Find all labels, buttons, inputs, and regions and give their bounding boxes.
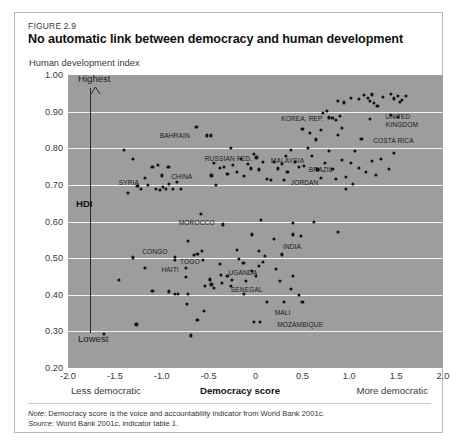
point-label: BRAZIL [309, 166, 333, 173]
point-label: UGANDA [228, 268, 257, 275]
x-tick-label: 1.0 [343, 371, 356, 381]
y-tick-label: 0.80 [45, 143, 63, 153]
figure-source: Source: World Bank 2001c, indicator tabl… [28, 419, 178, 428]
x-axis-caption-center: Democracy score [200, 385, 280, 396]
point-label: MOZAMBIQUE [277, 321, 323, 328]
x-tick-label: -1.0 [154, 371, 170, 381]
annotation-hdi: HDI [76, 198, 93, 209]
x-tick-label: -2.0 [60, 371, 76, 381]
point-label: INDIA [283, 243, 301, 250]
point-label: KINGDOM [386, 120, 418, 127]
x-tick-label: 1.5 [390, 371, 403, 381]
figure-title: No automatic link between democracy and … [28, 32, 403, 46]
x-tick-label: 0.5 [296, 371, 309, 381]
y-tick-label: 1.00 [45, 70, 63, 80]
point-label: JORDAN [291, 178, 319, 185]
note-text: Democracy score is the voice and account… [46, 409, 324, 418]
gridline [68, 258, 443, 259]
figure-note: Note: Democracy score is the voice and a… [28, 409, 325, 418]
point-label: RUSSIAN FED. [205, 155, 252, 162]
y-axis-caption: Human development index [29, 58, 140, 68]
y-tick-label: 0.90 [45, 107, 63, 117]
y-tick-label: 0.50 [45, 253, 63, 263]
x-tick-label: 2.0 [437, 371, 450, 381]
x-tick-label: 0 [253, 371, 258, 381]
figure-number-label: FIGURE 2.9 [28, 21, 76, 31]
x-axis-caption-right: More democratic [357, 385, 428, 396]
x-axis-caption-left: Less democratic [71, 385, 141, 396]
point-label: SYRIA [119, 179, 139, 186]
annotation-lowest: Lowest [78, 333, 108, 344]
y-tick-label: 0.30 [45, 326, 63, 336]
point-label: SENEGAL [231, 286, 263, 293]
y-tick-label: 0.70 [45, 180, 63, 190]
source-label: Source: [28, 419, 54, 428]
note-label: Note: [28, 409, 46, 418]
point-label: MALI [275, 308, 291, 315]
point-label: HAITI [161, 266, 178, 273]
y-tick-label: 0.40 [45, 290, 63, 300]
scatter-plot: 0.200.300.400.500.600.700.800.901.00 -2.… [68, 75, 443, 368]
gridline [68, 295, 443, 296]
y-tick-label: 0.60 [45, 217, 63, 227]
gridline [68, 331, 443, 332]
point-label: CONGO [142, 248, 167, 255]
hdi-arrow-shaft-icon [90, 88, 91, 333]
point-label: TOGO [180, 257, 200, 264]
x-tick-label: -1.5 [107, 371, 123, 381]
footer-divider [28, 403, 431, 404]
annotation-highest: Highest [78, 73, 111, 84]
gridline [68, 222, 443, 223]
source-text: World Bank 2001c, indicator table 1. [54, 419, 178, 428]
figure-card: FIGURE 2.9 No automatic link between dem… [14, 12, 443, 433]
point-label: COSTA RICA [373, 136, 413, 143]
point-label: KOREA, REP. [281, 114, 323, 121]
x-tick-label: -0.5 [201, 371, 217, 381]
point-label: MOROCCO [179, 219, 215, 226]
point-label: UNITED [385, 112, 410, 119]
point-label: BAHRAIN [160, 132, 190, 139]
point-label: CHINA [171, 173, 192, 180]
point-label: MALAYSIA [271, 157, 304, 164]
